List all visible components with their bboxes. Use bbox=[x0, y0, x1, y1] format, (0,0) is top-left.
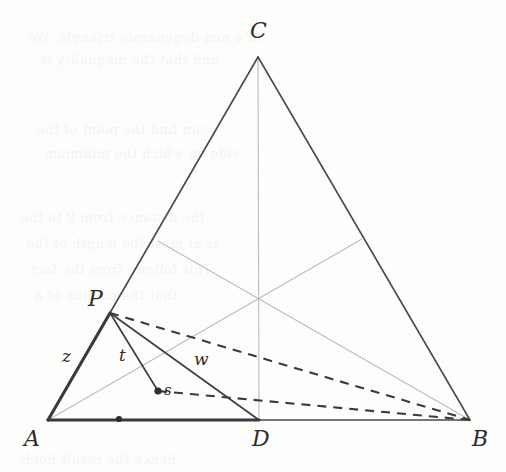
segment-label-t: t bbox=[119, 347, 126, 364]
vertex-label-d: D bbox=[252, 428, 270, 450]
point-label-s: s bbox=[164, 383, 172, 398]
inner-segments-group bbox=[110, 313, 259, 420]
segment-ps-t-line bbox=[110, 313, 158, 391]
vertex-label-p: P bbox=[88, 288, 103, 310]
dot-point-s-marker bbox=[154, 387, 161, 394]
point-markers-group bbox=[116, 387, 162, 422]
segment-label-z: z bbox=[62, 348, 71, 365]
vertex-label-a: A bbox=[24, 428, 40, 450]
vertex-label-b: B bbox=[472, 428, 488, 450]
geometry-figure: of a non-degenerate triangle. We and tha… bbox=[0, 0, 506, 472]
emphasized-segments-group bbox=[48, 313, 259, 420]
segment-label-w: w bbox=[194, 351, 209, 368]
median-b-to-midac-line bbox=[158, 241, 470, 420]
triangle-diagram-svg bbox=[0, 0, 506, 472]
median-c-to-d-line bbox=[258, 57, 259, 420]
dot-on-ad-marker bbox=[116, 416, 122, 422]
segment-ap-z-line bbox=[48, 313, 110, 420]
side-bc-line bbox=[258, 57, 470, 420]
vertex-label-c: C bbox=[250, 20, 267, 42]
median-a-to-midbc-line bbox=[48, 239, 362, 420]
segment-pd-w-line bbox=[110, 313, 259, 420]
median-lines-group bbox=[48, 57, 470, 420]
